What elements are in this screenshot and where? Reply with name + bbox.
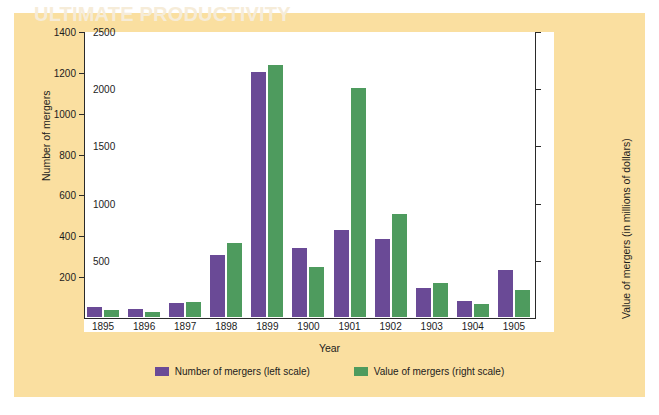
bar-group: 1899 (249, 31, 290, 317)
x-axis-tick-label: 1900 (288, 321, 328, 332)
chart-legend: Number of mergers (left scale) Value of … (14, 366, 645, 377)
bar-number-of-mergers (87, 307, 102, 317)
y-axis-left-tick-label: 200 (59, 272, 76, 283)
bar-number-of-mergers (210, 255, 225, 317)
bar-value-of-mergers (104, 310, 119, 317)
bar-group: 1896 (126, 31, 167, 317)
y-axis-left-tick-label: 1000 (54, 108, 76, 119)
legend-item-value-of-mergers: Value of mergers (right scale) (354, 366, 504, 377)
bar-group: 1902 (373, 31, 414, 317)
bar-number-of-mergers (292, 248, 307, 317)
bar-number-of-mergers (457, 301, 472, 317)
tick-mark (79, 73, 84, 74)
y-axis-left-title: Number of mergers (40, 91, 52, 181)
y-axis-left-tick-label: 1200 (54, 67, 76, 78)
legend-swatch-purple-icon (155, 367, 169, 376)
x-axis-tick-label: 1901 (330, 321, 370, 332)
bar-value-of-mergers (145, 312, 160, 317)
bar-group: 1900 (290, 31, 331, 317)
tick-mark (79, 114, 84, 115)
bar-value-of-mergers (351, 88, 366, 317)
x-axis-tick-label: 1903 (412, 321, 452, 332)
y-axis-left-tick-label: 800 (59, 149, 76, 160)
tick-mark (79, 32, 84, 33)
bar-number-of-mergers (498, 270, 513, 317)
bar-value-of-mergers (309, 267, 324, 317)
bar-value-of-mergers (186, 302, 201, 317)
y-axis-right-title: Value of mergers (in millions of dollars… (620, 138, 632, 319)
x-axis-tick-label: 1895 (83, 321, 123, 332)
legend-swatch-green-icon (354, 367, 368, 376)
bar-group: 1897 (167, 31, 208, 317)
y-axis-left-tick-label: 400 (59, 231, 76, 242)
x-axis-tick-label: 1896 (124, 321, 164, 332)
x-axis-tick-label: 1898 (206, 321, 246, 332)
chart-panel: ULTIMATE PRODUCTIVITY JOHN D. ROCKEFELLE… (14, 13, 645, 397)
legend-label-value-of-mergers: Value of mergers (right scale) (374, 366, 504, 377)
bar-value-of-mergers (515, 290, 530, 317)
x-axis-tick-label: 1902 (371, 321, 411, 332)
bar-group: 1905 (496, 31, 537, 317)
x-axis-tick-label: 1904 (453, 321, 493, 332)
tick-mark (79, 195, 84, 196)
legend-item-number-of-mergers: Number of mergers (left scale) (155, 366, 310, 377)
plot-area: 200400600800100012001400 500100015002000… (84, 32, 536, 318)
y-axis-left-tick-label: 1400 (54, 27, 76, 38)
bar-value-of-mergers (474, 304, 489, 317)
bar-number-of-mergers (416, 288, 431, 317)
bar-group: 1895 (85, 31, 126, 317)
x-axis-title: Year (14, 342, 645, 354)
bar-value-of-mergers (392, 214, 407, 317)
bar-number-of-mergers (334, 230, 349, 317)
bar-group: 1903 (414, 31, 455, 317)
bar-number-of-mergers (128, 309, 143, 317)
bar-value-of-mergers (268, 65, 283, 317)
bar-group: 1901 (332, 31, 373, 317)
y-axis-left-tick-label: 600 (59, 190, 76, 201)
bar-value-of-mergers (433, 283, 448, 317)
x-axis-line (84, 318, 536, 319)
x-axis-tick-label: 1905 (494, 321, 534, 332)
tick-mark (79, 277, 84, 278)
background-header-text: ULTIMATE PRODUCTIVITY (34, 3, 291, 26)
tick-mark (79, 155, 84, 156)
bar-group: 1898 (208, 31, 249, 317)
bar-group: 1904 (455, 31, 496, 317)
bar-number-of-mergers (251, 72, 266, 317)
x-axis-tick-label: 1897 (165, 321, 205, 332)
tick-mark (79, 236, 84, 237)
bar-number-of-mergers (169, 303, 184, 317)
bar-number-of-mergers (375, 239, 390, 317)
legend-label-number-of-mergers: Number of mergers (left scale) (175, 366, 310, 377)
bar-value-of-mergers (227, 243, 242, 317)
x-axis-tick-label: 1899 (247, 321, 287, 332)
